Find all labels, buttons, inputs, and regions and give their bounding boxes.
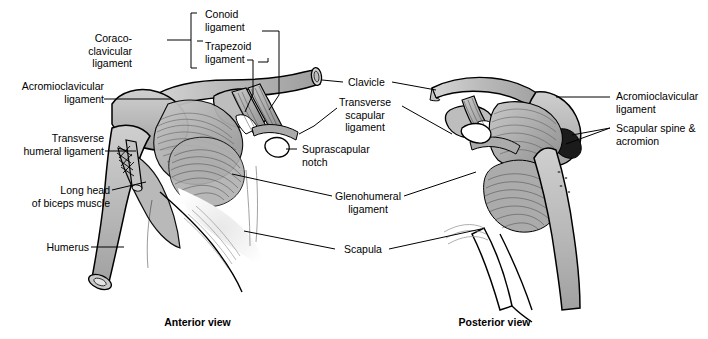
- label-coracoclavicular-ligament: Coraco- clavicular ligament: [20, 32, 132, 70]
- coracoclavicular-bracket: [167, 13, 203, 68]
- label-transverse-humeral-ligament: Transverse humeral ligament: [0, 132, 104, 157]
- caption-posterior-view: Posterior view: [437, 316, 552, 328]
- label-clavicle: Clavicle: [348, 76, 408, 89]
- label-scapular-spine-and-acromion: Scapular spine & acromion: [616, 122, 708, 147]
- label-conoid-ligament: Conoid ligament: [205, 8, 315, 33]
- caption-anterior-view: Anterior view: [140, 316, 255, 328]
- anterior-figure: [86, 67, 322, 293]
- label-humerus: Humerus: [0, 241, 89, 254]
- anatomy-diagram: Coraco- clavicular ligament Conoid ligam…: [0, 0, 708, 339]
- label-glenohumeral-ligament: Glenohumeral ligament: [330, 190, 406, 215]
- label-transverse-scapular-ligament: Transverse scapular ligament: [330, 96, 400, 134]
- label-acromioclavicular-ligament-left: Acromioclavicular ligament: [0, 80, 104, 105]
- label-long-head-of-biceps-muscle: Long head of biceps muscle: [0, 184, 110, 209]
- label-trapezoid-ligament: Trapezoid ligament: [205, 40, 315, 65]
- label-scapula: Scapula: [340, 243, 386, 256]
- label-acromioclavicular-ligament-right: Acromioclavicular ligament: [616, 90, 708, 115]
- label-suprascapular-notch: Suprascapular notch: [302, 143, 397, 168]
- posterior-figure: [430, 77, 581, 322]
